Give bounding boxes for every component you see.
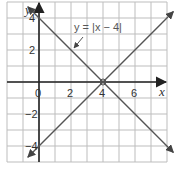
y-tick-label: −2 bbox=[25, 108, 38, 120]
x-tick-label: 2 bbox=[67, 87, 73, 99]
y-tick-label: −4 bbox=[25, 140, 38, 152]
x-tick-label: 4 bbox=[99, 87, 105, 99]
equation-annotation: y = |x − 4| bbox=[74, 21, 122, 33]
x-tick-label: 6 bbox=[131, 87, 137, 99]
annotation-arrow bbox=[74, 37, 83, 48]
y-tick-label: 2 bbox=[29, 44, 35, 56]
x-tick-label: 0 bbox=[35, 87, 41, 99]
x-axis-label: x bbox=[158, 84, 165, 99]
y-axis-label: y bbox=[23, 2, 31, 17]
chart: 024642−2−4 x y y = |x − 4| bbox=[0, 0, 177, 174]
